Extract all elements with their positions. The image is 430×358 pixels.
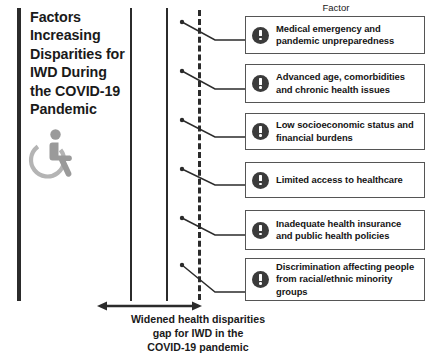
bottom-caption: Widened health disparities gap for IWD i… <box>73 312 323 354</box>
axis-rule-middle <box>130 8 132 301</box>
factor-label: Advanced age, comorbidities and chronic … <box>276 71 420 95</box>
dashed-threshold-line <box>198 10 201 300</box>
wheelchair-accessibility-icon <box>28 126 86 184</box>
axis-rule-left <box>17 8 21 301</box>
factor-box[interactable]: Inadequate health insurance and public h… <box>245 210 425 250</box>
alert-exclamation-icon <box>252 123 269 140</box>
figure-canvas: Factors Increasing Disparities for IWD D… <box>0 0 430 358</box>
factor-label: Limited access to healthcare <box>276 174 403 186</box>
column-header-factor: Factor <box>246 2 426 13</box>
factor-box[interactable]: Low socioeconomic status and financial b… <box>245 113 425 150</box>
factor-box[interactable]: Medical emergency and pandemic unprepare… <box>245 16 425 54</box>
alert-exclamation-icon <box>252 27 269 44</box>
factor-box[interactable]: Advanced age, comorbidities and chronic … <box>245 64 425 103</box>
title-block: Factors Increasing Disparities for IWD D… <box>30 8 126 119</box>
factor-label: Inadequate health insurance and public h… <box>276 218 420 242</box>
factor-box[interactable]: Discrimination affecting people from rac… <box>245 258 425 301</box>
alert-exclamation-icon <box>252 271 269 288</box>
alert-exclamation-icon <box>252 222 269 239</box>
factor-label: Discrimination affecting people from rac… <box>276 261 420 297</box>
alert-exclamation-icon <box>252 75 269 92</box>
factor-box[interactable]: Limited access to healthcare <box>245 162 425 198</box>
factor-label: Low socioeconomic status and financial b… <box>276 119 420 143</box>
double-headed-horizontal-arrow <box>97 301 202 310</box>
alert-exclamation-icon <box>252 172 269 189</box>
factor-label: Medical emergency and pandemic unprepare… <box>276 23 420 47</box>
axis-rule-inner <box>166 8 168 301</box>
page-title: Factors Increasing Disparities for IWD D… <box>30 8 126 119</box>
